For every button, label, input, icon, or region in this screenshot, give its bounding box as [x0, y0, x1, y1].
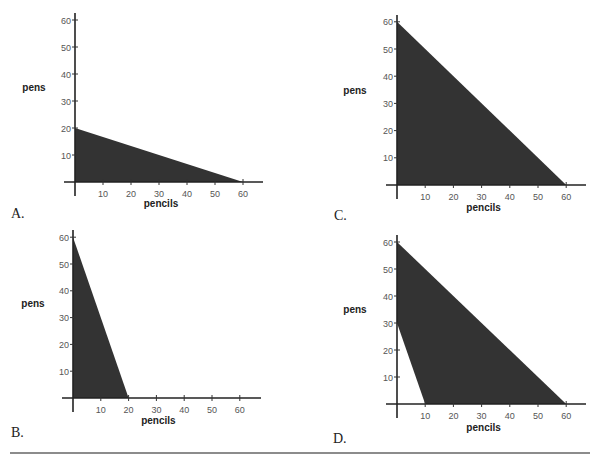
panel-label-c: C.	[334, 208, 347, 223]
x-axis-title-c: pencils	[466, 202, 501, 213]
panel-label-b: B.	[11, 425, 24, 440]
y-tick-label-a: 40	[61, 70, 71, 80]
x-tick-label-d: 20	[448, 411, 458, 421]
y-tick-label-c: 20	[383, 126, 393, 136]
y-tick-label-d: 60	[383, 238, 393, 248]
y-tick-label-a: 10	[61, 151, 71, 161]
y-tick-label-b: 40	[59, 286, 69, 296]
x-tick-label-b: 40	[179, 405, 189, 415]
x-tick-label-a: 50	[210, 189, 220, 199]
x-tick-label-c: 60	[561, 192, 571, 202]
feasible-region-c	[397, 22, 566, 185]
x-tick-label-b: 50	[207, 405, 217, 415]
y-tick-label-a: 20	[61, 124, 71, 134]
x-tick-label-b: 20	[124, 405, 134, 415]
x-tick-label-a: 20	[126, 189, 136, 199]
y-tick-label-c: 60	[383, 17, 393, 27]
x-tick-label-b: 10	[96, 405, 106, 415]
y-tick-label-b: 50	[59, 260, 69, 270]
y-axis-title-b: pens	[21, 298, 45, 309]
x-tick-label-d: 60	[561, 411, 571, 421]
x-tick-label-b: 30	[151, 405, 161, 415]
y-axis-title-d: pens	[343, 304, 367, 315]
y-tick-label-c: 40	[383, 72, 393, 82]
feasible-region-b	[73, 237, 129, 398]
answer-choices-figure: 102030405060102030405060penspencilsA.102…	[0, 0, 598, 463]
y-tick-label-a: 60	[61, 16, 71, 26]
panel-label-a: A.	[11, 206, 25, 221]
x-axis-title-b: pencils	[141, 415, 176, 426]
y-tick-label-b: 20	[59, 340, 69, 350]
x-axis-title-d: pencils	[466, 422, 501, 433]
y-tick-label-c: 50	[383, 45, 393, 55]
y-tick-label-a: 30	[61, 97, 71, 107]
y-tick-label-d: 30	[383, 319, 393, 329]
panel-label-d: D.	[333, 431, 347, 446]
x-tick-label-b: 60	[235, 405, 245, 415]
y-tick-label-b: 30	[59, 313, 69, 323]
x-tick-label-a: 40	[182, 189, 192, 199]
x-tick-label-c: 40	[505, 192, 515, 202]
y-tick-label-a: 50	[61, 43, 71, 53]
x-axis-title-a: pencils	[144, 198, 179, 209]
y-tick-label-d: 10	[383, 373, 393, 383]
x-tick-label-c: 20	[448, 192, 458, 202]
x-tick-label-c: 10	[420, 192, 430, 202]
y-tick-label-d: 40	[383, 292, 393, 302]
feasible-region-d	[397, 242, 566, 404]
x-tick-label-a: 60	[238, 189, 248, 199]
x-tick-label-a: 10	[98, 189, 108, 199]
y-tick-label-d: 50	[383, 265, 393, 275]
y-tick-label-c: 30	[383, 99, 393, 109]
x-tick-label-d: 30	[477, 411, 487, 421]
y-axis-title-c: pens	[343, 85, 367, 96]
x-tick-label-c: 50	[533, 192, 543, 202]
x-tick-label-d: 10	[420, 411, 430, 421]
y-tick-label-b: 60	[59, 233, 69, 243]
x-tick-label-d: 40	[505, 411, 515, 421]
y-axis-title-a: pens	[22, 82, 46, 93]
feasible-region-a	[75, 128, 243, 182]
y-tick-label-d: 20	[383, 346, 393, 356]
y-tick-label-c: 10	[383, 153, 393, 163]
x-tick-label-c: 30	[477, 192, 487, 202]
x-tick-label-d: 50	[533, 411, 543, 421]
y-tick-label-b: 10	[59, 367, 69, 377]
